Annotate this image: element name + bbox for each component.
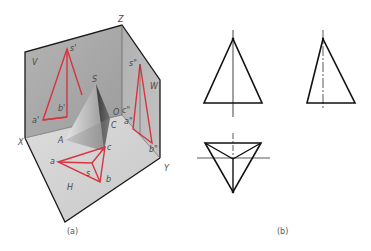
label-h: H: [67, 183, 73, 192]
label-s: S: [92, 75, 97, 84]
label-z: Z: [117, 15, 124, 24]
panel-a: Z V s' S b' a' s" W O c" a" C b" X A a c…: [17, 15, 170, 236]
label-a-upper: A: [57, 136, 63, 145]
label-y: Y: [164, 164, 170, 173]
label-s-prime: s': [70, 44, 76, 53]
label-c-upper: C: [111, 121, 117, 130]
label-b-prime: b': [58, 104, 65, 113]
label-a-double: a": [124, 117, 133, 126]
top-view: [197, 133, 270, 193]
side-view: [307, 30, 355, 110]
label-o: O: [113, 108, 119, 117]
front-apex-dot: [232, 38, 235, 41]
label-v: V: [32, 58, 38, 67]
label-s-lower: s: [86, 169, 90, 178]
label-c: c: [107, 143, 112, 152]
side-apex-dot: [322, 38, 324, 40]
panel-b: [197, 30, 355, 193]
front-view: [204, 30, 262, 117]
caption-b: (b): [277, 227, 288, 236]
label-a: a: [50, 157, 55, 166]
label-w: W: [150, 82, 159, 91]
caption-a: (a): [67, 227, 78, 236]
label-x: X: [17, 138, 24, 147]
label-s-double: s": [129, 59, 137, 68]
projection-diagram: Z V s' S b' a' s" W O c" a" C b" X A a c…: [0, 0, 371, 251]
label-b: b: [106, 175, 111, 184]
label-b-double: b": [149, 145, 158, 154]
label-c-double: c": [122, 106, 130, 115]
label-a-prime: a': [32, 116, 39, 125]
